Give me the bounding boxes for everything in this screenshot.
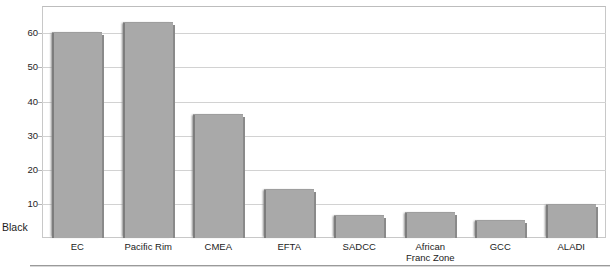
x-tick-label-line: ALADI	[526, 241, 616, 252]
bar[interactable]	[123, 22, 173, 238]
footer-rule-shadow	[30, 266, 610, 267]
x-tick-label: ALADI	[526, 241, 616, 252]
x-tick-label-line: Franc Zone	[385, 252, 476, 263]
bar[interactable]	[193, 114, 243, 238]
bar[interactable]	[52, 32, 102, 238]
y-tick-label: 30	[8, 131, 38, 141]
bar-shadow	[525, 223, 527, 238]
bar-shadow	[596, 207, 598, 238]
bar[interactable]	[546, 204, 596, 238]
y-tick-label: 20	[8, 165, 38, 175]
bar[interactable]	[405, 212, 455, 238]
bar[interactable]	[475, 220, 525, 238]
bar-shadow	[314, 192, 316, 238]
y-tick-label: 50	[8, 62, 38, 72]
y-tick-label: 10	[8, 199, 38, 209]
bar-shadow	[384, 218, 386, 238]
chart-title	[42, 0, 606, 3]
plot-area	[42, 6, 606, 238]
bar-shadow	[173, 25, 175, 238]
bar-chart-figure: 102030405060 ECPacific RimCMEAEFTASADCCA…	[0, 0, 616, 271]
y-tick-label: 60	[8, 28, 38, 38]
bar-shadow	[243, 117, 245, 238]
bar-shadow	[455, 215, 457, 238]
y-tick-label: 40	[8, 97, 38, 107]
series-label: Black	[2, 222, 28, 233]
bar[interactable]	[264, 189, 314, 238]
bar-shadow	[102, 35, 104, 238]
bar[interactable]	[334, 215, 384, 238]
